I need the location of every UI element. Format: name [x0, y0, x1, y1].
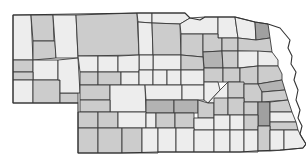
county-perkins: [80, 100, 110, 112]
county-nuckolls: [214, 130, 230, 152]
county-wayne: [222, 38, 238, 51]
county-holt: [152, 23, 181, 55]
county-arthur: [80, 72, 98, 85]
county-saline: [244, 115, 258, 130]
county-keith: [80, 85, 110, 100]
county-pawnee: [270, 130, 284, 151]
county-jefferson: [244, 130, 258, 152]
county-fillmore: [230, 115, 244, 130]
county-lancaster: [258, 102, 270, 126]
county-keya-paha: [137, 13, 152, 23]
county-york: [228, 98, 244, 115]
county-red-willow: [122, 128, 142, 153]
county-chase: [78, 112, 98, 128]
county-banner: [13, 72, 33, 80]
county-madison: [203, 51, 223, 68]
county-harlan: [158, 128, 176, 152]
county-box-butte: [33, 41, 56, 60]
county-boone: [181, 55, 204, 70]
county-dodge: [240, 66, 258, 84]
county-antelope: [181, 34, 203, 57]
county-garfield-area: [153, 55, 181, 70]
county-loup: [153, 70, 167, 85]
county-furnas: [142, 128, 158, 153]
county-garden: [58, 58, 80, 93]
county-butler: [228, 82, 244, 98]
county-buffalo: [174, 100, 198, 113]
county-adams: [194, 118, 214, 130]
county-webster: [194, 130, 214, 152]
county-kimball: [13, 80, 33, 103]
county-dundy: [78, 128, 98, 153]
county-hayes: [98, 112, 118, 128]
county-gage: [258, 126, 270, 151]
county-otoe: [270, 112, 296, 122]
county-lincoln: [110, 85, 146, 112]
county-sioux: [13, 15, 33, 60]
county-phelps: [156, 113, 175, 128]
county-grant: [78, 56, 98, 72]
county-johnson: [270, 122, 298, 130]
county-kearney: [175, 113, 194, 128]
county-richardson: [284, 130, 306, 150]
county-mcpherson: [98, 72, 121, 85]
county-clay: [214, 115, 230, 130]
county-dawson: [146, 100, 174, 113]
county-dixon: [235, 17, 256, 40]
county-logan: [121, 72, 139, 85]
county-thomas: [118, 55, 139, 72]
county-dakota: [255, 22, 270, 40]
county-hitchcock: [98, 128, 122, 153]
county-wheeler: [139, 55, 153, 70]
county-colfax: [223, 68, 240, 82]
county-platte: [204, 68, 223, 82]
county-frontier: [118, 112, 146, 128]
county-hall: [198, 100, 214, 118]
county-thayer: [230, 130, 244, 152]
county-cherry: [76, 13, 139, 56]
county-burt: [258, 51, 278, 66]
county-gosper: [146, 113, 156, 128]
county-franklin: [176, 128, 194, 152]
county-cuming: [238, 51, 258, 68]
county-thurston: [238, 38, 272, 52]
county-cass: [270, 100, 292, 112]
county-layer: [13, 13, 306, 153]
county-cheyenne: [33, 80, 60, 103]
county-scotts-bluff: [13, 60, 33, 72]
nebraska-county-map: [0, 0, 306, 158]
county-sheridan: [53, 15, 78, 58]
county-blaine: [139, 70, 153, 85]
county-morrill: [33, 60, 58, 80]
county-hooker: [98, 56, 118, 72]
county-nance: [181, 70, 204, 85]
county-deuel: [60, 93, 78, 103]
county-stanton: [222, 51, 238, 68]
county-dawes: [31, 15, 54, 41]
county-valley-sherman: [182, 85, 204, 100]
county-custer: [145, 85, 182, 100]
county-rock: [138, 22, 153, 55]
county-greeley: [167, 70, 181, 85]
county-seward: [244, 102, 258, 115]
county-hamilton: [214, 98, 228, 115]
